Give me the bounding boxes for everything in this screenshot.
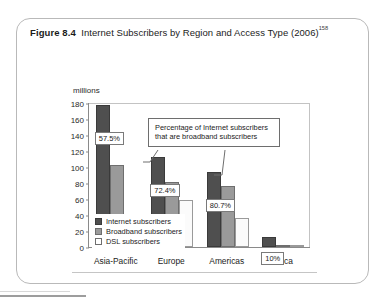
callout-leader-lines (0, 0, 385, 307)
legend-swatch-dsl-icon (95, 238, 102, 245)
chart-legend: Internet subscribers Broadband subscribe… (92, 214, 185, 248)
callout-line-1: Percentage of Internet subscribers (155, 123, 274, 132)
bar-percentage-label: 10% (261, 252, 284, 265)
legend-item-dsl: DSL subscribers (95, 236, 182, 246)
legend-label-internet: Internet subscribers (106, 217, 171, 226)
legend-item-broadband: Broadband subscribers (95, 226, 182, 236)
bar-percentage-label: 80.7% (206, 199, 235, 212)
legend-swatch-broadband-icon (95, 228, 102, 235)
callout-line-2: that are broadband subscribers (155, 132, 274, 141)
legend-item-internet: Internet subscribers (95, 216, 182, 226)
legend-label-broadband: Broadband subscribers (106, 227, 182, 236)
legend-swatch-internet-icon (95, 218, 102, 225)
bar-percentage-label: 57.5% (95, 132, 124, 145)
bar-percentage-label: 72.4% (150, 184, 179, 197)
callout-box: Percentage of Internet subscribers that … (148, 118, 280, 147)
legend-label-dsl: DSL subscribers (106, 237, 160, 246)
figure-page: Figure 8.4 Internet Subscribers by Regio… (0, 0, 385, 307)
